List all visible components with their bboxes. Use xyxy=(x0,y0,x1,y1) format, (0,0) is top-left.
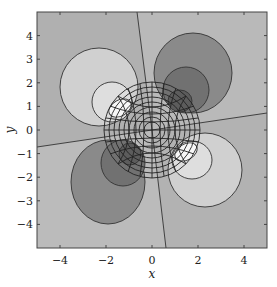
contour-fills xyxy=(37,12,267,248)
x-tick-label: 4 xyxy=(241,254,248,267)
y-tick-label: −2 xyxy=(17,171,33,184)
y-tick-label: 2 xyxy=(26,77,33,90)
y-tick-labels: 4 3 2 1 0 −1 −2 −3 −4 xyxy=(17,30,33,232)
x-tick-label: −4 xyxy=(52,254,68,267)
y-tick-label: 0 xyxy=(26,124,33,137)
x-tick-labels: −4 −2 0 2 4 xyxy=(52,254,248,267)
x-axis-label: x xyxy=(149,267,156,281)
y-axis-label: y xyxy=(3,126,17,134)
x-tick-label: 2 xyxy=(195,254,202,267)
y-tick-label: −1 xyxy=(17,148,33,161)
lobe-upper-right xyxy=(154,33,232,113)
center-grid-curves xyxy=(104,82,200,178)
y-tick-label: 1 xyxy=(26,100,33,113)
y-tick-label: 3 xyxy=(26,53,33,66)
y-tick-label: 4 xyxy=(26,30,33,43)
x-tick-label: −2 xyxy=(98,254,114,267)
contour-plot: −4 −2 0 2 4 4 3 2 1 0 −1 −2 −3 −4 x y xyxy=(0,0,277,287)
y-tick-label: −4 xyxy=(17,218,33,231)
y-tick-label: −3 xyxy=(17,195,33,208)
x-tick-label: 0 xyxy=(149,254,156,267)
